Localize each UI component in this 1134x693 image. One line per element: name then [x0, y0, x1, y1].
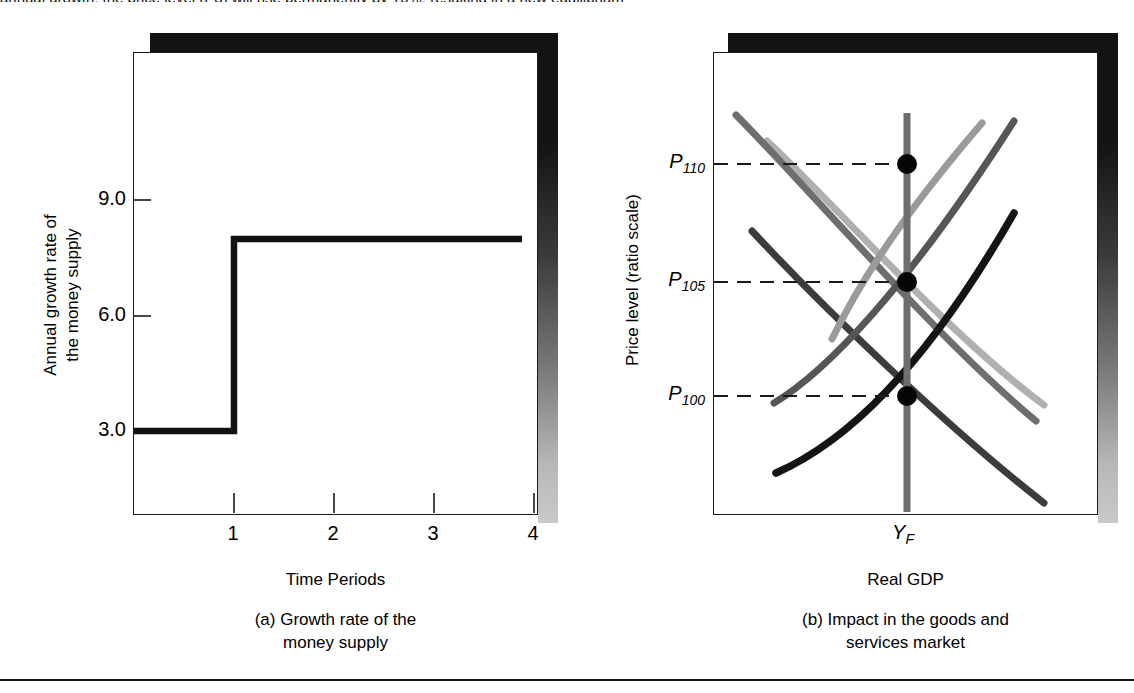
panel-a-x-tick-3: 3: [413, 522, 453, 545]
x-tick-yf-base: Y: [892, 521, 905, 543]
panel-a-x-tick-2: 2: [313, 522, 353, 545]
x-tick-yf: YF: [873, 521, 933, 547]
panel-b-shadow-right: [1098, 33, 1118, 523]
panel-a-x-tick-1: 1: [213, 522, 253, 545]
money-growth-step-line: [134, 239, 522, 431]
price-tick-p110-base: P: [669, 150, 682, 172]
price-tick-p110: P110: [620, 150, 705, 176]
panel-a-x-axis-label: Time Periods: [133, 570, 538, 590]
panel-b-caption-line1: (b) Impact in the goods and: [802, 610, 1009, 629]
panel-b-y-ticks: [714, 164, 725, 396]
price-tick-p105: P105: [620, 268, 705, 294]
panel-b-plot-frame: [713, 52, 1098, 515]
panel-b-caption: (b) Impact in the goods and services mar…: [708, 608, 1103, 654]
panel-a-caption-line2: money supply: [283, 633, 388, 652]
panel-a-x-tick-4: 4: [513, 522, 553, 545]
price-tick-p110-sub: 110: [683, 160, 705, 176]
panel-a: Annual growth rate of the money supply 9…: [0, 0, 560, 693]
panel-b: Price level (ratio scale) P110 P105 P100…: [560, 0, 1134, 693]
x-tick-yf-sub: F: [905, 531, 914, 547]
panel-b-shadow-top: [728, 33, 1118, 53]
panel-a-plot-frame: [133, 52, 538, 515]
price-tick-p105-sub: 105: [682, 278, 705, 294]
panel-a-y-axis-label-line2: the money supply: [63, 228, 82, 361]
figure-bottom-rule: [0, 679, 1134, 681]
as1-curve: [776, 213, 1014, 473]
panel-a-x-ticks: [234, 493, 534, 513]
price-tick-p100: P100: [620, 382, 705, 408]
panel-a-caption-line1: (a) Growth rate of the: [255, 610, 417, 629]
panel-a-y-axis-label-line1: Annual growth rate of: [41, 214, 60, 376]
panel-a-shadow-right: [538, 33, 558, 523]
panel-b-plot-svg: [714, 53, 1096, 513]
panel-b-caption-line2: services market: [846, 633, 965, 652]
equilibrium-dot-e3: [897, 154, 917, 174]
price-tick-p100-sub: 100: [682, 392, 705, 408]
equilibrium-dot-e2: [897, 272, 917, 292]
panel-b-x-axis-label: Real GDP: [713, 570, 1098, 590]
panel-a-plot-svg: [134, 53, 536, 513]
panel-a-y-ticks: [134, 200, 151, 431]
equilibrium-dot-e1: [897, 386, 917, 406]
price-tick-p100-base: P: [668, 382, 681, 404]
panel-a-y-tick-3: 3.0: [72, 418, 126, 441]
price-tick-p105-base: P: [668, 268, 681, 290]
panel-a-y-axis-label: Annual growth rate of the money supply: [40, 130, 84, 460]
panel-a-caption: (a) Growth rate of the money supply: [133, 608, 538, 654]
panel-a-shadow-top: [150, 33, 558, 53]
figure-container: annual growth, the price level (P3) will…: [0, 0, 1134, 693]
panel-a-y-tick-6: 6.0: [72, 303, 126, 326]
panel-a-y-tick-9: 9.0: [72, 187, 126, 210]
